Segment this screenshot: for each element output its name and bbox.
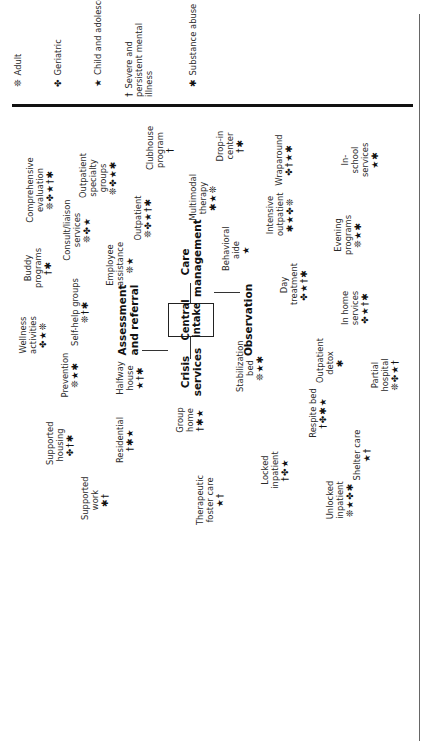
service-stabilization-bed: Stabilization bed❊★✱ (235, 344, 266, 392)
service-therapeutic-foster-care: Therapeutic foster care★† (195, 473, 226, 528)
legend-item-child: ★Child and adolescent (93, 0, 103, 87)
service-outpatient-detox: Outpatient detox✱ (315, 343, 346, 383)
service-outpatient-specialty-groups: Outpatient specialty groups❊✤★✱ (78, 158, 119, 198)
service-prevention: Prevention❊★✱ (60, 353, 81, 398)
service-in-home-services: In home services✤★†✱ (340, 288, 371, 328)
hub-care-management: Care management (179, 227, 203, 297)
service-outpatient: Outpatient❊✤★†✱ (133, 196, 154, 241)
service-in-school-services: In-school services★✱ (340, 143, 381, 177)
service-consult-liaison: Consult/liaison services❊✤★ (62, 199, 93, 261)
service-supported-housing: Supported housing✤†✱ (45, 425, 76, 465)
service-respite-bed: Respite bed†✤✱★ (308, 388, 329, 438)
service-unlocked-inpatient: Unlocked inpatient❊★✤✱ (325, 480, 356, 520)
spmi-symbol-icon: † (124, 93, 134, 98)
hub-crisis-services: Crisis services (179, 345, 203, 400)
connector-care (214, 292, 240, 293)
legend-divider (12, 104, 413, 107)
service-supported-work: Supported work✱† (80, 480, 111, 520)
service-day-treatment: Day treatment✤★†✱ (279, 265, 310, 305)
legend-item-substance: ✱Substance abuse (188, 4, 198, 87)
service-multimodal-therapy: Multimodal therapy✱★❊ (188, 176, 219, 221)
legend-item-geriatric: ✤Geriatric (53, 39, 63, 87)
service-drop-in-center: Drop-in center†✱ (215, 129, 246, 163)
service-wraparound: Wraparound✤†★✱ (274, 134, 295, 185)
page-edge-line (419, 14, 420, 741)
geriatric-symbol-icon: ✤ (53, 79, 63, 87)
legend-item-adult: ❊Adult (13, 54, 23, 87)
service-halfway-house: Halfway house★†✱ (115, 360, 146, 396)
service-comprehensive-evaluation: Comprehensive evaluation❊✤★†✱ (25, 155, 56, 225)
service-intensive-outpatient: Intensive outpatient✱★✤❊ (265, 194, 296, 236)
hub-assessment-referral: Assessment and referral (116, 275, 140, 365)
service-evening-programs: Evening programs❊★✱ (333, 215, 364, 255)
child-symbol-icon: ★ (93, 79, 103, 87)
central-intake-label: Central intake (180, 299, 202, 340)
legend-item-spmi: †Severe and persistent mental illness (124, 7, 154, 97)
service-residential: Residential†✱★ (115, 417, 136, 463)
connector-crisis (142, 350, 168, 351)
adult-symbol-icon: ❊ (13, 79, 23, 87)
service-clubhouse-program: Clubhouse program† (145, 130, 176, 170)
service-behavioral-aide: Behavioral aide★ (221, 229, 252, 271)
service-self-help-groups: Self-help groups❊†✱ (70, 278, 91, 346)
service-employee-assistance: Employee assistance❊★ (105, 244, 136, 286)
service-group-home: Group home†✱★ (175, 403, 206, 437)
service-buddy-programs: Buddy programs†✱ (23, 248, 54, 288)
service-partial-hospital: Partial hospital❊✤★† (370, 355, 401, 395)
service-shelter-care: Shelter care★† (352, 430, 373, 481)
service-locked-inpatient: Locked inpatient†✤★ (260, 450, 291, 490)
service-wellness-activities: Wellness activities✤★❊ (18, 315, 49, 355)
substance-symbol-icon: ✱ (188, 79, 198, 87)
